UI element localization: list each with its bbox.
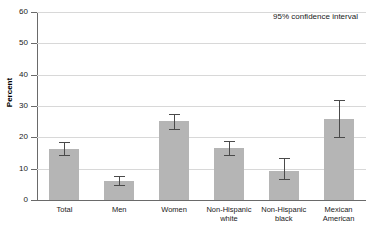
error-bar-cap-upper <box>224 141 235 142</box>
gridline <box>37 106 366 107</box>
error-bar-line <box>284 158 285 179</box>
gridline <box>37 169 366 170</box>
error-bar-cap-lower <box>334 137 345 138</box>
y-axis-tick <box>31 200 37 201</box>
y-axis-tick-label: 60 <box>0 7 28 16</box>
error-bar-cap-upper <box>334 100 345 101</box>
y-axis-tick-label: 10 <box>0 164 28 173</box>
error-bar-cap-lower <box>279 179 290 180</box>
y-axis-tick <box>31 75 37 76</box>
y-axis-tick <box>31 43 37 44</box>
gridline <box>37 43 366 44</box>
error-bar-cap-upper <box>114 176 125 177</box>
error-bar-line <box>174 114 175 129</box>
y-axis-tick-label: 20 <box>0 132 28 141</box>
y-axis-tick <box>31 137 37 138</box>
y-axis-title: Percent <box>5 53 14 133</box>
y-axis-tick <box>31 106 37 107</box>
error-bar-cap-upper <box>59 142 70 143</box>
y-axis-tick-label: 50 <box>0 38 28 47</box>
y-axis-tick <box>31 12 37 13</box>
error-bar-cap-lower <box>114 185 125 186</box>
bar-chart: Percent 0102030405060 TotalMenWomenNon-H… <box>0 0 370 230</box>
error-bar-line <box>119 176 120 185</box>
y-axis-tick-label: 0 <box>0 195 28 204</box>
error-bar-cap-lower <box>59 155 70 156</box>
gridline <box>37 75 366 76</box>
error-bar-line <box>229 141 230 155</box>
error-bar-cap-upper <box>279 158 290 159</box>
error-bar-cap-lower <box>224 155 235 156</box>
confidence-interval-annotation: 95% confidence interval <box>273 12 358 21</box>
bar <box>159 121 189 200</box>
y-axis-tick <box>31 169 37 170</box>
gridline <box>37 200 366 201</box>
x-axis-tick-label-line: American <box>307 214 370 223</box>
error-bar-cap-lower <box>169 129 180 130</box>
y-axis-tick-label: 40 <box>0 70 28 79</box>
error-bar-line <box>64 142 65 155</box>
y-axis-tick-label: 30 <box>0 101 28 110</box>
error-bar-cap-upper <box>169 114 180 115</box>
x-axis-tick-label-line: Mexican <box>307 205 370 214</box>
bar <box>49 149 79 200</box>
x-axis-tick-label: MexicanAmerican <box>307 205 370 223</box>
gridline <box>37 137 366 138</box>
error-bar-line <box>339 100 340 138</box>
